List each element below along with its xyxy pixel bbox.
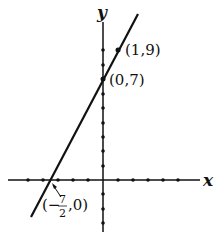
y-axis-label: y: [96, 2, 108, 22]
x-axis-label: x: [202, 170, 214, 190]
label-x-intercept: (− 7 2 ,0): [42, 193, 88, 220]
svg-text:(−: (−: [42, 196, 60, 214]
svg-text:7: 7: [59, 193, 66, 206]
point-1-9: [116, 48, 121, 53]
graph-canvas: y x (1,9) (0,7) (− 7 2 ,0): [0, 0, 217, 242]
graph-line: [31, 14, 138, 217]
label-point-1-9: (1,9): [125, 41, 161, 59]
label-point-0-7: (0,7): [109, 71, 145, 89]
svg-text:,0): ,0): [68, 196, 88, 214]
point-0-7: [101, 77, 106, 82]
svg-text:2: 2: [59, 207, 66, 220]
